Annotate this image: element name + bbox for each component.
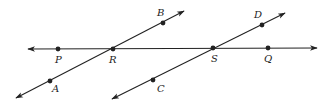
label-r: R: [108, 54, 117, 65]
label-q: Q: [264, 53, 272, 64]
line-PQ: [28, 48, 317, 49]
point-q: [266, 46, 271, 51]
label-p: P: [54, 54, 62, 65]
label-a: A: [51, 83, 59, 94]
point-s: [211, 46, 216, 51]
label-s: S: [211, 53, 218, 64]
geometry-diagram: PRSQABCD: [0, 0, 330, 107]
points-layer: [48, 21, 271, 84]
point-p: [56, 47, 61, 52]
diagram-svg: PRSQABCD: [0, 0, 330, 107]
point-c: [151, 78, 156, 83]
point-b: [161, 21, 166, 26]
labels-layer: PRSQABCD: [51, 7, 272, 94]
label-d: D: [253, 9, 262, 20]
label-c: C: [157, 83, 165, 94]
point-r: [111, 47, 116, 52]
point-d: [260, 23, 265, 28]
label-b: B: [156, 7, 164, 18]
line-CD: [112, 13, 285, 99]
